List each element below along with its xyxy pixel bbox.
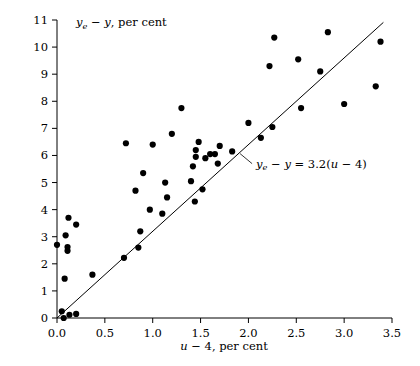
data-point bbox=[135, 244, 141, 250]
data-point bbox=[258, 135, 264, 141]
data-point bbox=[188, 178, 194, 184]
y-tick-label: 4 bbox=[41, 203, 48, 217]
data-point bbox=[63, 232, 69, 238]
equation-part: − bbox=[267, 157, 284, 171]
equation-part: − 4) bbox=[338, 157, 367, 171]
data-point bbox=[266, 63, 272, 69]
data-point bbox=[65, 215, 71, 221]
y-tick-label: 6 bbox=[41, 148, 48, 162]
data-point bbox=[192, 198, 198, 204]
data-point bbox=[159, 211, 165, 217]
y-tick-label: 2 bbox=[41, 257, 48, 271]
y-tick-label: 11 bbox=[33, 13, 48, 27]
x-axis-ticks bbox=[57, 318, 392, 323]
y-axis-title: ye − y, per cent bbox=[75, 15, 167, 31]
y-tick-label: 3 bbox=[41, 230, 48, 244]
chart-canvas: 01234567891011 0.00.51.01.52.02.53.03.5 … bbox=[0, 0, 420, 366]
data-point bbox=[73, 221, 79, 227]
data-point bbox=[325, 29, 331, 35]
y-tick-label: 7 bbox=[41, 121, 48, 135]
y-axis-title-units: , per cent bbox=[111, 15, 167, 29]
y-axis-title-op: − bbox=[87, 15, 104, 29]
data-point bbox=[162, 179, 168, 185]
data-point bbox=[215, 160, 221, 166]
data-point bbox=[164, 194, 170, 200]
data-point bbox=[178, 105, 184, 111]
x-axis-title-rest: − 4, per cent bbox=[188, 339, 269, 353]
x-tick-label: 3.0 bbox=[335, 326, 353, 340]
x-tick-label: 0.5 bbox=[96, 326, 114, 340]
x-axis-title-variable: u bbox=[180, 339, 187, 353]
y-tick-label: 10 bbox=[33, 40, 48, 54]
data-point bbox=[121, 255, 127, 261]
data-point bbox=[59, 308, 65, 314]
y-axis-title-rest: − y, per cent bbox=[87, 15, 167, 29]
data-point bbox=[298, 105, 304, 111]
y-tick-label: 8 bbox=[41, 94, 48, 108]
equation-part: = 3.2( bbox=[291, 157, 331, 171]
y-axis-tick-labels: 01234567891011 bbox=[33, 13, 48, 325]
data-point bbox=[54, 242, 60, 248]
x-axis: 0.00.51.01.52.02.53.03.5 bbox=[48, 318, 401, 340]
equation-part: u bbox=[331, 157, 338, 171]
data-point bbox=[373, 83, 379, 89]
data-point bbox=[217, 143, 223, 149]
data-point bbox=[66, 312, 72, 318]
data-point bbox=[317, 68, 323, 74]
x-axis-tick-labels: 0.00.51.01.52.02.53.03.5 bbox=[48, 326, 401, 340]
x-tick-label: 2.0 bbox=[239, 326, 257, 340]
data-point bbox=[193, 154, 199, 160]
y-tick-label: 9 bbox=[41, 67, 48, 81]
data-point bbox=[123, 140, 129, 146]
annotation-leader-line bbox=[240, 154, 252, 164]
y-axis-ticks bbox=[52, 20, 57, 318]
data-point bbox=[140, 170, 146, 176]
data-point-group bbox=[54, 29, 384, 321]
data-point bbox=[212, 151, 218, 157]
data-point bbox=[169, 131, 175, 137]
x-tick-label: 3.5 bbox=[383, 326, 401, 340]
data-point bbox=[132, 188, 138, 194]
x-tick-label: 2.5 bbox=[287, 326, 305, 340]
data-point bbox=[229, 148, 235, 154]
data-point bbox=[62, 276, 68, 282]
y-axis: 01234567891011 bbox=[33, 13, 57, 325]
data-point bbox=[271, 35, 277, 41]
data-point bbox=[89, 272, 95, 278]
data-point bbox=[199, 186, 205, 192]
x-tick-label: 0.0 bbox=[48, 326, 66, 340]
data-point bbox=[196, 139, 202, 145]
data-point bbox=[150, 142, 156, 148]
x-axis-title: u − 4, per cent bbox=[180, 339, 268, 353]
data-point bbox=[137, 228, 143, 234]
x-tick-label: 1.0 bbox=[144, 326, 162, 340]
regression-equation-label: ye − y = 3.2(u − 4) bbox=[255, 157, 367, 173]
data-point bbox=[245, 120, 251, 126]
data-point bbox=[295, 56, 301, 62]
data-point bbox=[73, 311, 79, 317]
data-point bbox=[341, 101, 347, 107]
data-point bbox=[202, 155, 208, 161]
data-point bbox=[377, 39, 383, 45]
data-point bbox=[61, 315, 67, 321]
y-tick-label: 0 bbox=[41, 311, 48, 325]
y-tick-label: 5 bbox=[41, 176, 48, 190]
data-point bbox=[64, 244, 70, 250]
scatter-plot-figure: 01234567891011 0.00.51.01.52.02.53.03.5 … bbox=[0, 0, 420, 366]
data-point bbox=[193, 147, 199, 153]
data-point bbox=[190, 163, 196, 169]
y-tick-label: 1 bbox=[41, 284, 48, 298]
data-point bbox=[147, 207, 153, 213]
data-point bbox=[269, 124, 275, 130]
x-tick-label: 1.5 bbox=[191, 326, 209, 340]
